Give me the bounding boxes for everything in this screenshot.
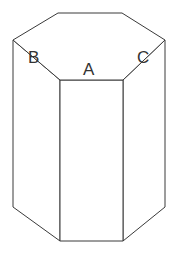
face-label-a: A: [83, 61, 94, 78]
prism-front-face: [60, 80, 123, 241]
figure-canvas: B A C: [0, 0, 177, 255]
hexagonal-prism-drawing: [0, 0, 177, 255]
face-label-c: C: [137, 49, 149, 66]
face-label-b: B: [28, 49, 39, 66]
